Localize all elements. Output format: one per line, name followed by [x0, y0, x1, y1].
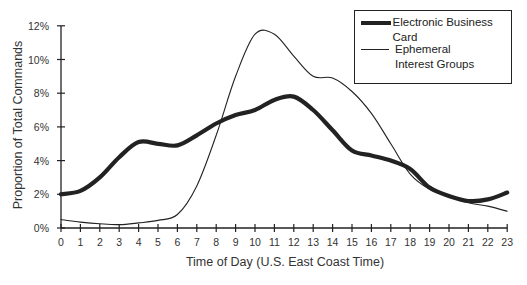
y-tick-label: 8% [34, 87, 49, 99]
x-tick-label: 17 [385, 236, 397, 248]
y-tick-label: 6% [34, 121, 49, 133]
x-tick-label: 22 [482, 236, 494, 248]
y-axis-label: Proportion of Total Commands [11, 35, 25, 215]
y-tick-label: 4% [34, 155, 49, 167]
x-tick-label: 23 [501, 236, 513, 248]
x-tick-label: 7 [194, 236, 200, 248]
y-tick-label: 12% [28, 20, 49, 32]
x-tick-label: 11 [269, 236, 280, 248]
legend-item-ephemeral-interest-groups: Ephemeral Interest Groups [361, 42, 481, 72]
x-tick-label: 13 [307, 236, 319, 248]
x-tick-label: 4 [136, 236, 142, 248]
x-tick-label: 3 [116, 236, 122, 248]
y-tick-label: 0% [34, 222, 49, 234]
x-tick-label: 9 [233, 236, 239, 248]
x-tick-label: 20 [443, 236, 455, 248]
x-tick-label: 19 [424, 236, 436, 248]
x-tick-label: 12 [288, 236, 300, 248]
x-tick-label: 8 [213, 236, 219, 248]
x-tick-label: 0 [58, 236, 64, 248]
x-tick-label: 18 [404, 236, 416, 248]
x-tick-label: 21 [463, 236, 475, 248]
y-tick-label: 10% [28, 54, 49, 66]
x-tick-label: 1 [77, 236, 83, 248]
x-tick-label: 14 [327, 236, 339, 248]
thin-line-swatch-icon [361, 49, 389, 50]
legend-label: Electronic Business Card [393, 15, 511, 45]
x-tick-label: 5 [155, 236, 161, 248]
legend: Electronic Business Card Ephemeral Inter… [354, 10, 512, 84]
legend-item-electronic-business-card: Electronic Business Card [361, 15, 511, 45]
x-tick-label: 6 [174, 236, 180, 248]
x-tick-label: 10 [249, 236, 261, 248]
series-electronic-business-card [61, 96, 507, 201]
x-tick-label: 15 [346, 236, 358, 248]
thick-line-swatch-icon [361, 21, 391, 25]
x-axis-label: Time of Day (U.S. East Coast Time) [60, 255, 510, 269]
x-tick-label: 2 [97, 236, 103, 248]
legend-label: Ephemeral Interest Groups [395, 42, 481, 72]
y-tick-label: 2% [34, 188, 49, 200]
x-tick-label: 16 [366, 236, 378, 248]
